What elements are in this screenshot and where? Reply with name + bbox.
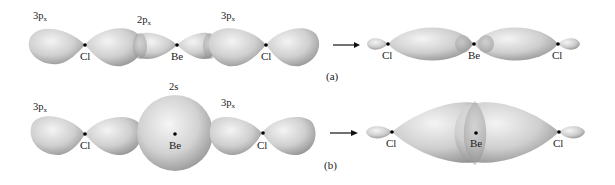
atom-label-cl-left-b: Cl: [80, 139, 90, 151]
orbital-label-2s-b: 2s: [169, 81, 178, 92]
atom-label-cl-right-b-after: Cl: [553, 137, 563, 149]
panel-label-b: (b): [324, 159, 337, 172]
panel-a: 3px 2px 3px Cl Be Cl (a) Cl Be Cl: [29, 10, 580, 83]
orbital-label-2px-a: 2px: [137, 14, 152, 27]
panel-b: 3px 2s 3px Cl Be Cl (b) Cl Be Cl: [31, 81, 585, 172]
nucleus-cl-right-a: [264, 43, 268, 47]
atom-label-be-b: Be: [169, 139, 181, 151]
nucleus-be-b: [173, 132, 177, 136]
orbital-label-3px-left-b: 3px: [33, 101, 48, 114]
nucleus-cl-right-b: [261, 131, 265, 135]
atom-label-cl-right-a-after: Cl: [552, 49, 562, 61]
bonding-diagram: 3px 2px 3px Cl Be Cl (a) Cl Be Cl: [0, 0, 615, 185]
atom-label-be-a: Be: [171, 50, 183, 62]
atom-label-be-b-after: Be: [470, 137, 482, 149]
panel-label-a: (a): [326, 70, 339, 83]
nucleus-be-b-after: [474, 131, 478, 135]
nucleus-cl-left-b-after: [390, 130, 394, 134]
atom-label-cl-left-a-after: Cl: [382, 49, 392, 61]
nucleus-be-a: [175, 43, 179, 47]
arrow-icon-b: [330, 130, 358, 136]
atom-label-cl-right-b: Cl: [257, 139, 267, 151]
atom-label-cl-left-b-after: Cl: [386, 137, 396, 149]
orbital-label-3px-right-a: 3px: [221, 10, 236, 23]
atom-label-cl-left-a: Cl: [80, 50, 90, 62]
atom-label-cl-right-a: Cl: [261, 50, 271, 62]
nucleus-cl-right-a-after: [556, 42, 560, 46]
orbital-label-3px-left-a: 3px: [33, 10, 48, 23]
orbital-label-3px-right-b: 3px: [221, 97, 236, 110]
nucleus-cl-right-b-after: [557, 130, 561, 134]
nucleus-cl-left-a: [83, 43, 87, 47]
arrow-icon-a: [333, 42, 360, 48]
nucleus-cl-left-a-after: [386, 42, 390, 46]
nucleus-be-a-after: [472, 42, 476, 46]
nucleus-cl-left-b: [83, 132, 87, 136]
atom-label-be-a-after: Be: [468, 49, 480, 61]
